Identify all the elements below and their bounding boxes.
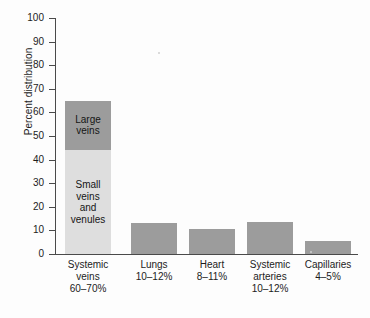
bar-lungs	[131, 223, 177, 254]
y-axis-tick-label: 100	[18, 13, 44, 23]
bar-systemic-veins: LargeveinsSmallveinsandvenules	[65, 101, 111, 254]
bar-segment-label-small-veins: Smallveinsandvenules	[65, 179, 111, 225]
y-axis-tick-label-wrap: 40	[14, 155, 44, 165]
bar-heart	[189, 229, 235, 254]
y-axis-tick-label-wrap: 10	[14, 225, 44, 235]
y-axis-tick-label-wrap: 20	[14, 202, 44, 212]
y-axis-tick-label: 30	[18, 178, 44, 188]
category-label-line: 10–12%	[230, 283, 310, 295]
bar-systemic-arteries	[247, 222, 293, 254]
y-axis-tick	[49, 254, 55, 255]
y-axis-tick-label: 80	[18, 60, 44, 70]
category-label-capillaries: Capillaries4–5%	[288, 259, 368, 283]
y-axis-tick-label: 40	[18, 155, 44, 165]
bar-segment-small-veins: Smallveinsandvenules	[65, 150, 111, 254]
y-axis-tick-label-wrap: 100	[14, 13, 44, 23]
y-axis-tick-label: 0	[18, 249, 44, 259]
y-axis-tick-label-wrap: 80	[14, 60, 44, 70]
segment-label-line: venules	[65, 214, 111, 226]
y-axis-tick-label: 20	[18, 202, 44, 212]
y-axis-tick-label-wrap: 0	[14, 249, 44, 259]
bar-fill-systemic-arteries	[247, 222, 293, 254]
x-axis-line	[55, 254, 358, 255]
y-axis-tick-label-wrap: 90	[14, 37, 44, 47]
y-axis-tick-label-wrap: 50	[14, 131, 44, 141]
segment-label-line: Small	[65, 179, 111, 191]
scan-speck	[310, 251, 312, 253]
bar-segment-label-large-veins: Largeveins	[65, 114, 111, 137]
y-axis-tick-label: 10	[18, 225, 44, 235]
bar-fill-heart	[189, 229, 235, 254]
y-axis-tick-label-wrap: 60	[14, 107, 44, 117]
segment-label-line: and	[65, 202, 111, 214]
y-axis-tick-label: 60	[18, 107, 44, 117]
segment-label-line: Large	[65, 114, 111, 126]
bar-fill-lungs	[131, 223, 177, 254]
segment-label-line: veins	[65, 125, 111, 137]
category-label-line: Capillaries	[288, 259, 368, 271]
bar-segment-large-veins: Largeveins	[65, 101, 111, 151]
segment-label-line: veins	[65, 191, 111, 203]
y-axis-tick-label: 50	[18, 131, 44, 141]
percent-distribution-bar-chart: Percent distribution 1009080706050403020…	[0, 0, 370, 318]
y-axis-tick-label: 70	[18, 84, 44, 94]
scan-speck	[158, 52, 160, 54]
y-axis-tick-label-wrap: 70	[14, 84, 44, 94]
category-label-line: 4–5%	[288, 271, 368, 283]
y-axis-tick-label-wrap: 30	[14, 178, 44, 188]
plot-area: LargeveinsSmallveinsandvenules	[55, 18, 358, 254]
category-label-line: 60–70%	[48, 283, 128, 295]
y-axis-tick-label: 90	[18, 37, 44, 47]
